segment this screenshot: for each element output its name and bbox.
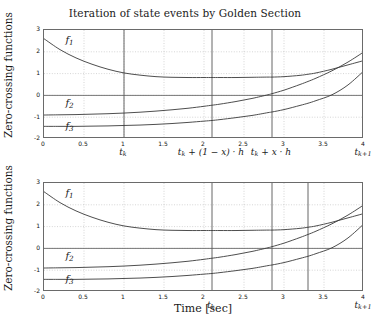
x-tick-label: 0.5 [73,293,93,300]
x-tick-label: 1 [113,140,133,147]
x-tick-label: 2.5 [233,140,253,147]
y-tick-label: 0 [21,91,40,98]
x-tick-label: 3.5 [313,140,333,147]
y-tick-label: -1 [21,266,40,273]
bottom-plot-area [43,182,363,291]
x-axis-label: Time [sec] [43,302,363,315]
x-tick-label: 3.5 [313,293,333,300]
top-chart-svg [44,30,363,138]
curve-label-f2: f2 [65,97,73,110]
x-tick-label: 2 [193,140,213,147]
curve-label-f3: f3 [65,273,73,286]
y-tick-label: 0 [21,244,40,251]
x-tick-label: 4 [353,293,373,300]
bottom-panel: Zero-crossing functions 3210-1-2 00.511.… [0,165,370,323]
y-axis-label-bottom: Zero-crossing functions [2,181,14,291]
x-tick-label: 0 [33,140,53,147]
x-tick-label: 3 [273,293,293,300]
y-tick-label: 3 [21,178,40,185]
y-tick-label: 1 [21,69,40,76]
x-tick-label: 0.5 [73,140,93,147]
curve-label-f2: f2 [65,250,73,263]
y-tick-label: 3 [21,25,40,32]
curve-label-f3: f3 [65,120,73,133]
curve-f2 [44,205,363,268]
y-tick-label: -1 [21,113,40,120]
curve-label-f1: f1 [65,34,73,47]
x-tick-label: 3 [273,140,293,147]
x-tick-label: 2 [193,293,213,300]
curve-f3 [44,224,363,280]
y-tick-label: 1 [21,222,40,229]
x-tick-label: 4 [353,140,373,147]
curve-label-f1: f1 [65,187,73,200]
x-tick-label: 0 [33,293,53,300]
curve-f1 [44,192,363,231]
top-panel: Iteration of state events by Golden Sect… [0,0,370,165]
curve-f3 [44,71,363,127]
x-tick-label: 1.5 [153,140,173,147]
event-label: tk+1 [308,147,375,158]
y-tick-label: 2 [21,47,40,54]
y-axis-label-top: Zero-crossing functions [2,28,14,138]
y-tick-label: 2 [21,200,40,207]
chart-title: Iteration of state events by Golden Sect… [0,7,370,19]
top-plot-area [43,29,363,138]
x-tick-label: 2.5 [233,293,253,300]
x-tick-label: 1 [113,293,133,300]
bottom-chart-svg [44,183,363,291]
curve-f1 [44,39,363,78]
curve-f2 [44,52,363,115]
x-tick-label: 1.5 [153,293,173,300]
